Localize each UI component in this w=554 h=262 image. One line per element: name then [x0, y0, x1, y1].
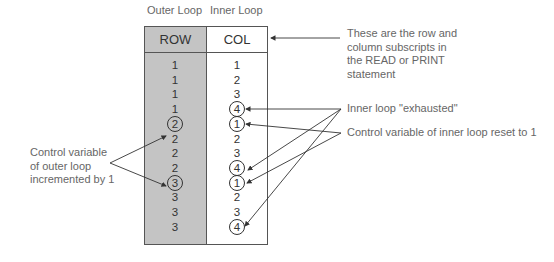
- exhausted-arrow-2: [248, 109, 341, 170]
- annotation-arrows: [0, 0, 554, 262]
- exhausted-arrow-3: [245, 109, 341, 226]
- outer-arrow-2: [110, 163, 166, 186]
- reset-arrow-2: [247, 133, 341, 183]
- reset-arrow-1: [246, 124, 341, 133]
- outer-arrow-1: [110, 136, 166, 163]
